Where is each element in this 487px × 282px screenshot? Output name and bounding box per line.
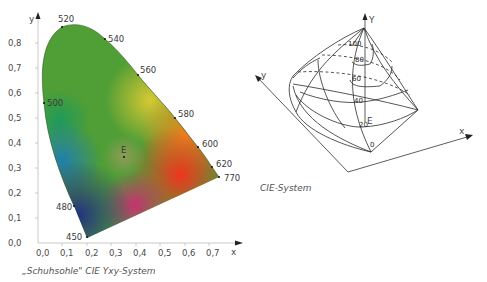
svg-text:0,4: 0,4 [133, 248, 147, 258]
Y-axis-label: Y [368, 15, 375, 25]
level-100-label: 100 [348, 40, 361, 48]
svg-text:0,0: 0,0 [36, 248, 50, 258]
svg-text:0,5: 0,5 [8, 113, 22, 123]
svg-text:0,2: 0,2 [8, 188, 22, 198]
y-axis-arrow-icon [36, 12, 41, 19]
svg-text:0,7: 0,7 [206, 248, 220, 258]
cie-3d-solid: y x Y 100 80 60 40 20 0 E [255, 13, 473, 193]
y-axis-label: y [29, 14, 35, 24]
wavelength-600: 600 [202, 139, 218, 149]
x-axis-arrow-icon [235, 241, 243, 246]
svg-text:0,3: 0,3 [109, 248, 123, 258]
svg-text:0,6: 0,6 [8, 88, 22, 98]
white-point-label: E [121, 145, 126, 155]
x-axis-label: x [231, 247, 237, 257]
wavelength-450: 450 [66, 232, 82, 242]
wavelength-580: 580 [178, 109, 194, 119]
svg-text:0,4: 0,4 [8, 138, 22, 148]
level-60-label: 60 [352, 75, 361, 83]
floor-x-label: x [459, 126, 465, 136]
floor-y-label: y [261, 70, 267, 80]
svg-text:0,7: 0,7 [8, 63, 22, 73]
x-tick-labels: 0,0 0,1 0,2 0,3 0,4 0,5 0,6 0,7 [36, 243, 220, 258]
right-caption: CIE-System [260, 183, 312, 193]
svg-text:0,6: 0,6 [182, 248, 196, 258]
white-point-marker [123, 156, 125, 158]
svg-text:0,1: 0,1 [60, 248, 74, 258]
svg-text:0,1: 0,1 [8, 213, 22, 223]
svg-text:0,8: 0,8 [8, 38, 22, 48]
Y-axis-arrow-icon [363, 13, 368, 20]
wavelength-480: 480 [56, 202, 72, 212]
wavelength-770: 770 [224, 173, 240, 183]
svg-text:0,2: 0,2 [85, 248, 99, 258]
svg-text:0,5: 0,5 [158, 248, 172, 258]
level-0-label: 0 [370, 141, 374, 149]
cie-diagrams: y x 0,0 0,1 0,2 0,3 0,4 0,5 0,6 0,7 0,8 … [0, 0, 487, 282]
wavelength-540: 540 [108, 34, 124, 44]
y-tick-labels: 0,0 0,1 0,2 0,3 0,4 0,5 0,6 0,7 0,8 [8, 38, 38, 248]
white-point-E-label: E [367, 116, 373, 126]
level-40-label: 40 [354, 97, 363, 105]
floor-y-axis [258, 78, 348, 172]
floor-x-axis [348, 137, 467, 172]
chromaticity-diagram: y x 0,0 0,1 0,2 0,3 0,4 0,5 0,6 0,7 0,8 … [8, 12, 243, 276]
wavelength-500: 500 [47, 98, 63, 108]
wavelength-560: 560 [140, 65, 156, 75]
wavelength-620: 620 [216, 159, 232, 169]
svg-text:0,0: 0,0 [8, 238, 22, 248]
level-80-label: 80 [355, 56, 364, 64]
wavelength-520: 520 [58, 14, 74, 24]
left-caption: „Schuhsohle" CIE Yxy-System [22, 266, 156, 276]
svg-text:0,3: 0,3 [8, 163, 22, 173]
floor-x-arrow-icon [465, 134, 473, 140]
